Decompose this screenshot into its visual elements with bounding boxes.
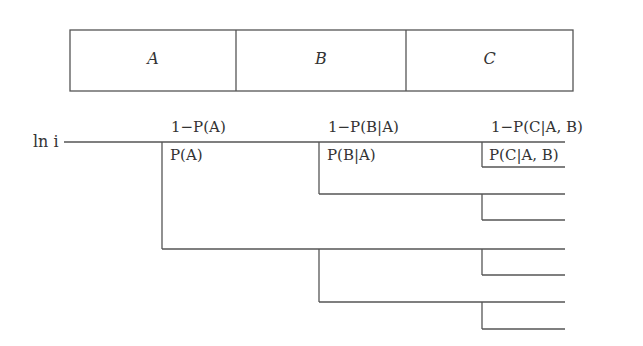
stage-label-b: B: [236, 48, 406, 70]
label-fail-b: 1−P(B|A): [328, 118, 399, 136]
event-tree-diagram: A B C ln i 1−P(A) P(A) 1−P(B|A) P(B|A) 1…: [0, 0, 643, 346]
stage-label-a: A: [70, 48, 236, 70]
label-fail-c: 1−P(C|A, B): [491, 118, 583, 136]
stage-label-c: C: [406, 48, 573, 70]
root-label: ln i: [33, 133, 59, 151]
label-success-a: P(A): [170, 146, 203, 164]
label-fail-a: 1−P(A): [171, 118, 226, 136]
label-success-c: P(C|A, B): [489, 146, 559, 164]
label-success-b: P(B|A): [327, 146, 376, 164]
